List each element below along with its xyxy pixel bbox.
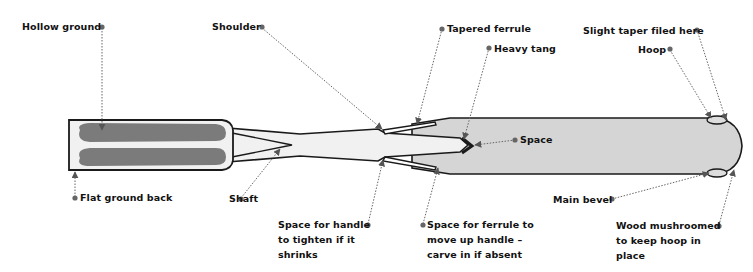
leader-hoop xyxy=(670,50,711,118)
dot-hoop xyxy=(667,46,672,51)
label-main-bevel: Main bevel xyxy=(553,192,612,207)
dot-heavy-tang xyxy=(486,45,491,50)
label-shaft: Shaft xyxy=(229,191,258,206)
dot-flat-ground-back xyxy=(72,195,77,200)
leader-tapered-ferrule xyxy=(417,29,442,124)
leader-main-bevel xyxy=(612,173,709,199)
hollow-top xyxy=(79,123,226,142)
label-hollow-ground: Hollow ground xyxy=(22,19,101,34)
leader-space-ferrule xyxy=(423,168,438,224)
leader-slight-taper xyxy=(697,30,726,120)
label-flat-ground-back: Flat ground back xyxy=(80,190,172,205)
label-space-ferrule: Space for ferrule to move up handle – ca… xyxy=(427,217,534,262)
label-space-handle: Space for handle to tighten if it shrink… xyxy=(278,217,370,262)
dot-tapered-ferrule xyxy=(439,26,444,31)
label-wood-mushroomed: Wood mushroomed to keep hoop in place xyxy=(616,218,721,263)
dot-space-ferrule xyxy=(420,222,425,227)
leader-wood-mushroomed xyxy=(719,170,734,225)
blade xyxy=(69,120,233,170)
label-space: Space xyxy=(520,132,553,147)
label-heavy-tang: Heavy tang xyxy=(494,41,556,56)
leader-space-handle xyxy=(368,160,383,224)
hoop-bottom xyxy=(707,169,727,177)
label-slight-taper: Slight taper filed here xyxy=(583,23,704,38)
dot-space xyxy=(512,137,517,142)
label-shoulder: Shoulder xyxy=(212,19,261,34)
label-tapered-ferrule: Tapered ferrule xyxy=(447,21,531,36)
hollow-bottom xyxy=(79,148,226,166)
leader-shoulder xyxy=(262,28,382,129)
label-hoop: Hoop xyxy=(638,42,666,57)
